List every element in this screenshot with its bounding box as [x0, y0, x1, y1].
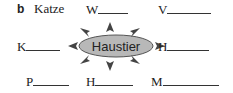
blank-line	[167, 39, 209, 51]
blank-letter: M	[151, 74, 163, 89]
blank-line	[98, 2, 128, 14]
blank-line	[167, 2, 211, 14]
arrow-down-icon	[106, 61, 114, 71]
blank-letter: P	[26, 74, 33, 89]
blank-line	[33, 74, 69, 86]
arrow-up-left-icon	[80, 28, 90, 37]
arrow-up-icon	[106, 22, 114, 32]
blank-letter: H	[158, 39, 167, 54]
blank-h-bottom[interactable]: H	[86, 74, 133, 88]
arrow-left-icon	[68, 42, 78, 50]
blank-k[interactable]: K	[17, 39, 60, 53]
exercise-label: b	[17, 2, 24, 16]
arrow-down-left-icon	[80, 55, 90, 64]
blank-letter: H	[86, 74, 95, 89]
example-word: Katze	[34, 2, 64, 15]
blank-m[interactable]: M	[151, 74, 219, 88]
blank-line	[26, 39, 60, 51]
blank-letter: W	[86, 2, 98, 17]
center-word: Haustier	[86, 39, 146, 54]
blank-line	[163, 74, 219, 86]
blank-h-right[interactable]: H	[158, 39, 209, 53]
blank-line	[95, 74, 133, 86]
blank-letter: K	[17, 39, 26, 54]
blank-p[interactable]: P	[26, 74, 69, 88]
blank-w[interactable]: W	[86, 2, 128, 16]
blank-letter: V	[158, 2, 167, 17]
blank-v[interactable]: V	[158, 2, 211, 16]
